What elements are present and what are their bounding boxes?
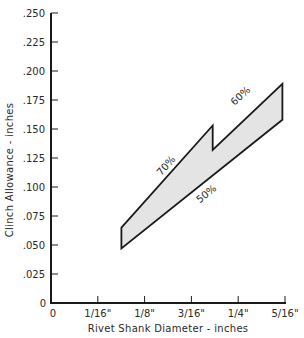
y-tick-label: .100 bbox=[23, 182, 45, 193]
y-tick-label: .175 bbox=[23, 95, 45, 106]
y-tick-label: .200 bbox=[23, 66, 45, 77]
series-label-60pct: 60% bbox=[228, 84, 252, 107]
y-tick-label: 0 bbox=[40, 298, 46, 309]
y-axis-title: Clinch Allowance - inches bbox=[4, 103, 15, 237]
clinch-allowance-region bbox=[121, 84, 282, 249]
y-tick-label: .150 bbox=[23, 124, 45, 135]
y-tick-label: .225 bbox=[23, 37, 45, 48]
x-axis-ticks: 01/16"1/8"3/16"1/4"5/16" bbox=[50, 296, 299, 319]
y-tick-label: .050 bbox=[23, 240, 45, 251]
x-tick-label: 3/16" bbox=[178, 308, 205, 319]
x-axis-title: Rivet Shank Diameter - inches bbox=[88, 323, 249, 334]
x-tick-label: 0 bbox=[50, 308, 56, 319]
x-tick-label: 5/16" bbox=[271, 308, 298, 319]
y-tick-label: .125 bbox=[23, 153, 45, 164]
x-tick-label: 1/4" bbox=[228, 308, 249, 319]
y-tick-label: .250 bbox=[23, 8, 45, 19]
y-tick-label: .075 bbox=[23, 211, 45, 222]
x-tick-label: 1/16" bbox=[84, 308, 111, 319]
y-tick-label: .025 bbox=[23, 269, 45, 280]
x-tick-label: 1/8" bbox=[134, 308, 155, 319]
clinch-allowance-chart: 0.025.050.075.100.125.150.175.200.225.25… bbox=[0, 0, 304, 338]
y-axis-ticks: 0.025.050.075.100.125.150.175.200.225.25… bbox=[23, 8, 58, 309]
